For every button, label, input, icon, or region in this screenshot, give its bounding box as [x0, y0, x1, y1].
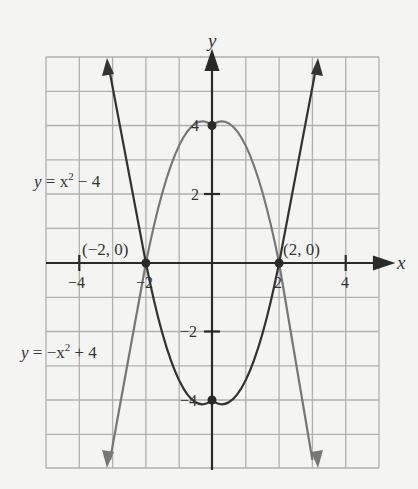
tick-y-neg2: −2	[180, 323, 197, 340]
tick-y-4: 4	[191, 117, 199, 134]
point-label-neg2-0: (−2, 0)	[82, 240, 128, 259]
tick-x-neg4: −4	[68, 274, 85, 291]
y-axis-label: y	[206, 30, 217, 51]
axes	[46, 52, 392, 470]
x-axis-label: x	[396, 252, 406, 273]
x-axis-arrow-icon	[374, 257, 392, 269]
tick-x-2: 2	[274, 274, 282, 291]
tick-y-neg4: −4	[180, 392, 197, 409]
point-label-2-0: (2, 0)	[283, 240, 320, 259]
tick-y-2: 2	[191, 186, 199, 203]
equation-label-downward: y = −x2 + 4	[19, 341, 97, 362]
tick-x-4: 4	[341, 274, 349, 291]
tick-x-neg2: −2	[136, 274, 153, 291]
y-axis-arrow-icon	[206, 52, 218, 70]
equation-label-upward: y = x2 − 4	[32, 170, 101, 191]
chart: x y −4 −2 2 4 4 2 −2 −4 (−2, 0) (2, 0) y…	[0, 0, 418, 489]
